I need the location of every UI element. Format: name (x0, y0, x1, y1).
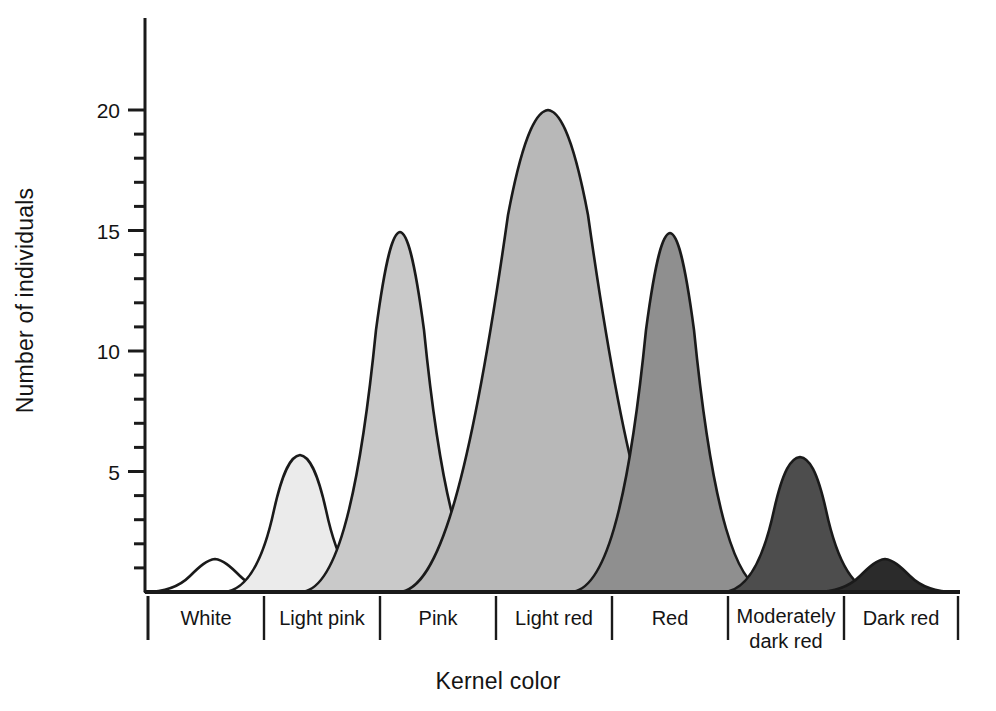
y-axis-major-ticks (128, 110, 145, 472)
x-category-label-dark-red: Dark red (863, 607, 940, 629)
y-tick-label-5: 5 (108, 461, 120, 484)
x-category-label-light-red: Light red (515, 607, 593, 629)
x-axis-title: Kernel color (0, 668, 996, 695)
x-category-label-pink: Pink (419, 607, 459, 629)
y-tick-label-10: 10 (97, 340, 120, 363)
chart-figure: Number of individuals (0, 0, 996, 711)
x-category-label-moderately-dark-red-line2: dark red (749, 630, 822, 652)
y-tick-label-15: 15 (97, 220, 120, 243)
curve-moderately-dark-red (722, 457, 878, 592)
x-category-label-red: Red (652, 607, 689, 629)
x-category-label-moderately-dark-red-line1: Moderately (737, 605, 836, 627)
distribution-plot: 20 15 10 5 (0, 0, 996, 711)
x-category-label-white: White (180, 607, 231, 629)
curve-group (145, 110, 955, 592)
x-category-label-light-pink: Light pink (279, 607, 366, 629)
y-tick-label-20: 20 (97, 99, 120, 122)
